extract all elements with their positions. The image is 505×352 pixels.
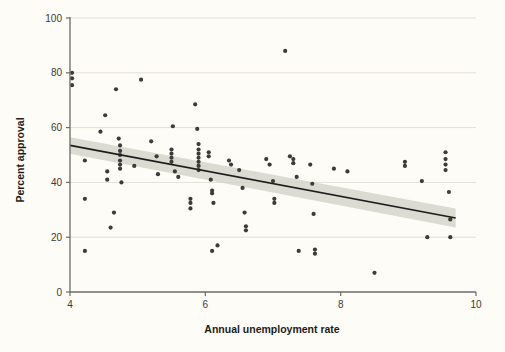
data-point xyxy=(169,147,173,151)
data-point xyxy=(372,271,376,275)
x-tick-label: 6 xyxy=(203,299,209,310)
data-point xyxy=(443,168,447,172)
data-point xyxy=(244,228,248,232)
data-point xyxy=(83,158,87,162)
x-axis-title: Annual unemployment rate xyxy=(204,323,340,335)
data-point xyxy=(264,157,268,161)
data-point xyxy=(237,168,241,172)
data-point xyxy=(297,249,301,253)
data-point xyxy=(109,226,113,230)
data-point xyxy=(196,160,200,164)
data-point xyxy=(155,154,159,158)
data-point xyxy=(118,143,122,147)
data-point xyxy=(196,147,200,151)
data-point xyxy=(118,149,122,153)
data-point xyxy=(207,150,211,154)
data-point xyxy=(105,178,109,182)
data-point xyxy=(169,156,173,160)
data-point xyxy=(156,172,160,176)
y-tick-label: 100 xyxy=(45,13,62,24)
data-point xyxy=(420,179,424,183)
data-point xyxy=(83,249,87,253)
data-point xyxy=(447,190,451,194)
data-point xyxy=(119,180,123,184)
data-point xyxy=(443,150,447,154)
data-point xyxy=(169,152,173,156)
data-point xyxy=(313,252,317,256)
y-tick-label: 80 xyxy=(51,67,63,78)
data-point xyxy=(272,201,276,205)
data-point xyxy=(283,49,287,53)
plot-canvas: 02040608010046810 Annual unemployment ra… xyxy=(0,0,505,352)
data-point xyxy=(196,164,200,168)
y-axis-title: Percent approval xyxy=(14,117,26,202)
data-point xyxy=(209,178,213,182)
data-point xyxy=(196,142,200,146)
data-point xyxy=(244,224,248,228)
data-point xyxy=(403,164,407,168)
data-point xyxy=(310,182,314,186)
data-point xyxy=(188,197,192,201)
data-point xyxy=(345,169,349,173)
data-point xyxy=(425,235,429,239)
data-point xyxy=(118,158,122,162)
data-point xyxy=(403,160,407,164)
data-point xyxy=(313,247,317,251)
data-point xyxy=(291,161,295,165)
data-point xyxy=(132,164,136,168)
data-point xyxy=(215,243,219,247)
data-point xyxy=(103,113,107,117)
data-point xyxy=(114,87,118,91)
data-point xyxy=(288,154,292,158)
data-point xyxy=(171,124,175,128)
data-point xyxy=(98,130,102,134)
data-point xyxy=(211,201,215,205)
data-point xyxy=(210,191,214,195)
data-point xyxy=(193,102,197,106)
data-point xyxy=(272,197,276,201)
data-point xyxy=(149,139,153,143)
y-tick-label: 60 xyxy=(51,122,63,133)
data-point xyxy=(139,78,143,82)
data-point xyxy=(188,201,192,205)
data-point xyxy=(173,169,177,173)
data-point xyxy=(105,169,109,173)
data-point xyxy=(443,162,447,166)
data-point xyxy=(118,167,122,171)
x-tick-label: 8 xyxy=(338,299,344,310)
x-tick-label: 10 xyxy=(470,299,482,310)
data-point xyxy=(112,210,116,214)
data-point xyxy=(227,158,231,162)
data-point xyxy=(196,152,200,156)
y-tick-label: 20 xyxy=(51,232,63,243)
x-tick-label: 4 xyxy=(67,299,73,310)
data-point xyxy=(169,160,173,164)
data-point xyxy=(240,186,244,190)
data-point xyxy=(268,162,272,166)
data-point xyxy=(448,235,452,239)
scatter-plot-figure: 02040608010046810 Annual unemployment ra… xyxy=(0,0,505,352)
data-point xyxy=(229,162,233,166)
data-point xyxy=(176,175,180,179)
data-point xyxy=(196,156,200,160)
data-point xyxy=(295,175,299,179)
data-point xyxy=(195,127,199,131)
data-point xyxy=(242,210,246,214)
data-point xyxy=(308,162,312,166)
data-point xyxy=(83,197,87,201)
y-tick-label: 40 xyxy=(51,177,63,188)
data-point xyxy=(312,212,316,216)
data-point xyxy=(118,162,122,166)
data-point xyxy=(332,167,336,171)
data-point xyxy=(271,179,275,183)
data-point xyxy=(443,157,447,161)
data-point xyxy=(210,249,214,253)
data-point xyxy=(207,154,211,158)
data-point xyxy=(117,136,121,140)
data-point xyxy=(291,157,295,161)
y-tick-label: 0 xyxy=(56,287,62,298)
data-point xyxy=(188,206,192,210)
